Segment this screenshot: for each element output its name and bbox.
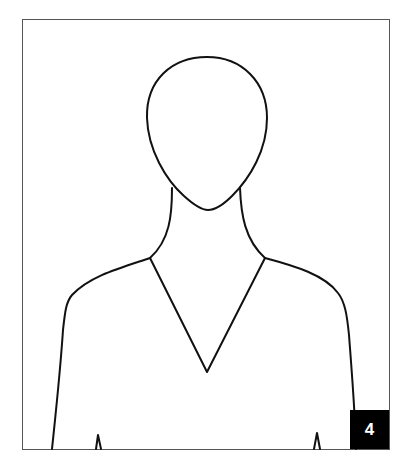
head-outline	[147, 57, 267, 210]
neck-left	[150, 188, 172, 258]
figure-outline	[0, 0, 413, 475]
v-neckline	[150, 258, 265, 372]
shoulder-left	[52, 258, 150, 449]
shoulder-right	[265, 258, 356, 449]
figure-number-badge: 4	[350, 410, 389, 449]
armpit-right	[314, 433, 320, 449]
neck-right	[240, 188, 265, 258]
armpit-left	[96, 435, 101, 449]
